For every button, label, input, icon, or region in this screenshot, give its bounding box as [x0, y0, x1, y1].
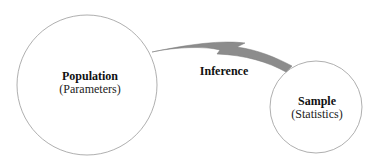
population-title: Population [62, 69, 118, 83]
inference-diagram: Population (Parameters) Sample (Statisti… [0, 0, 378, 162]
population-node: Population (Parameters) [17, 15, 157, 155]
sample-subtitle: (Statistics) [291, 107, 342, 121]
sample-node: Sample (Statistics) [270, 61, 362, 153]
inference-label: Inference [200, 64, 249, 78]
population-subtitle: (Parameters) [59, 82, 120, 96]
sample-title: Sample [298, 94, 337, 108]
